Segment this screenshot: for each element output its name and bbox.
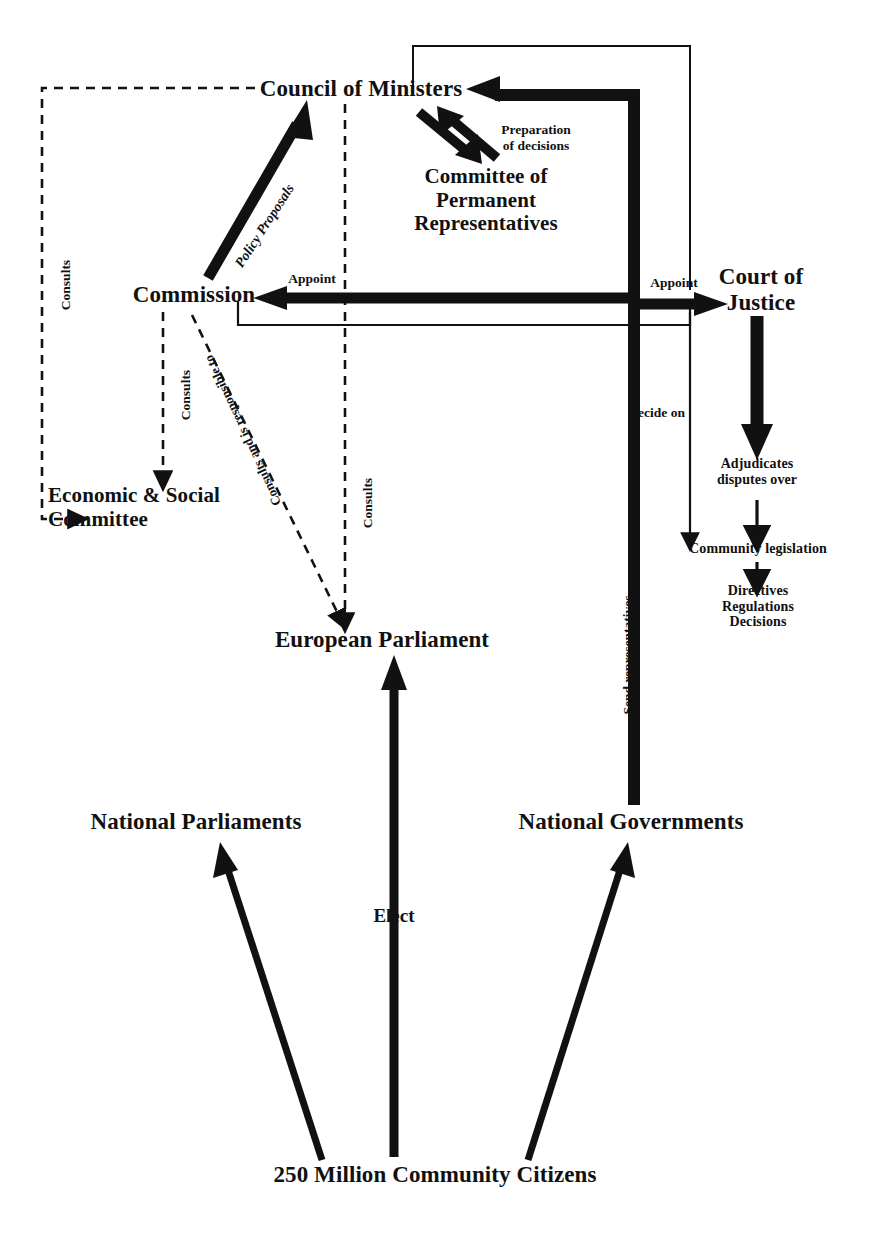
node-european-parliament[interactable]: European Parliament xyxy=(258,627,506,653)
node-community-legislation[interactable]: Community legislation xyxy=(666,541,850,557)
node-economic-social-committee[interactable]: Economic & Social Committee xyxy=(48,484,266,531)
arrowhead-into-commission xyxy=(253,286,287,310)
arrowhead-adjudicates xyxy=(741,424,773,460)
node-court-of-justice[interactable]: Court of Justice xyxy=(706,264,816,316)
node-national-governments[interactable]: National Governments xyxy=(505,809,757,835)
edge-label-consults-commission-esc: Consults xyxy=(178,350,194,440)
node-directives-regulations-decisions[interactable]: Directives Regulations Decisions xyxy=(700,583,816,630)
node-adjudicates-disputes[interactable]: Adjudicates disputes over xyxy=(686,456,828,487)
arrowhead-into-council xyxy=(466,76,500,102)
connector-citizens-natparl xyxy=(228,870,322,1160)
edge-label-send-representatives: Send representatives xyxy=(620,565,636,745)
node-committee-permanent-representatives[interactable]: Committee of Permanent Representatives xyxy=(386,165,586,236)
edge-label-elect: Elect xyxy=(364,905,424,927)
node-community-citizens[interactable]: 250 Million Community Citizens xyxy=(235,1162,635,1188)
arrowhead-natparl xyxy=(213,842,238,878)
connector-citizens-natgov xyxy=(528,870,620,1160)
edge-label-appoint-commission: Appoint xyxy=(277,271,347,287)
edge-label-decide-on: Decide on xyxy=(601,405,685,421)
arrowhead-natgov xyxy=(610,842,635,878)
arrowhead-elect-ep xyxy=(381,655,407,690)
edge-label-preparation-of-decisions: Preparation of decisions xyxy=(476,122,596,153)
edge-label-appoint-court: Appoint xyxy=(643,275,705,291)
node-commission[interactable]: Commission xyxy=(131,282,257,308)
arrowhead-policy-proposals xyxy=(284,100,313,140)
edge-label-consults-council-ep: Consults xyxy=(360,458,376,548)
node-council-of-ministers[interactable]: Council of Ministers xyxy=(255,76,467,102)
connector-commission-loop xyxy=(238,302,690,325)
diagram-canvas: Council of Ministers Committee of Perman… xyxy=(0,0,871,1236)
node-national-parliaments[interactable]: National Parliaments xyxy=(72,809,320,835)
edge-label-consults-council-esc: Consults xyxy=(58,240,74,330)
